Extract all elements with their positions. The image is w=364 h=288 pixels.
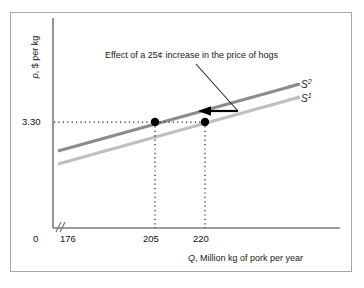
- x-axis-label: Q, Million kg of pork per year: [188, 253, 303, 263]
- y-axis-label-unit: , $ per kg: [30, 36, 40, 74]
- curve-label-s1-sup: 1: [308, 92, 312, 99]
- curve-label-s2-sup: 2: [308, 78, 312, 85]
- plot-canvas: [0, 0, 364, 288]
- x-axis-label-unit: , Million kg of pork per year: [195, 253, 303, 263]
- supply-curve-s2: [58, 84, 300, 151]
- x-axis-label-symbol: Q: [188, 253, 195, 263]
- figure-root: p, $ per kg Q, Million kg of pork per ye…: [0, 0, 364, 288]
- s2-label-leader: [288, 84, 299, 87]
- shift-annotation-text: Effect of a 25¢ increase in the price of…: [105, 50, 278, 60]
- curve-label-s2-base: S: [301, 79, 308, 90]
- x-tick-label-205: 205: [143, 233, 159, 244]
- equilibrium-dot-220: [201, 118, 209, 126]
- s1-label-leader: [288, 97, 299, 100]
- shift-arrow-head: [198, 106, 211, 116]
- supply-curve-s1: [58, 97, 300, 164]
- equilibrium-dot-205: [151, 118, 159, 126]
- y-axis-label-symbol: p: [30, 73, 40, 78]
- y-axis-label: p, $ per kg: [30, 17, 40, 97]
- x-tick-label-220: 220: [193, 233, 209, 244]
- curve-label-s2: S2: [301, 78, 312, 90]
- annotation-leader-line: [196, 64, 237, 110]
- x-tick-label-origin: 0: [33, 233, 38, 244]
- curve-label-s1: S1: [301, 92, 312, 104]
- curve-label-s1-base: S: [301, 93, 308, 104]
- x-tick-label-176: 176: [60, 233, 76, 244]
- y-tick-label-330: 3.30: [22, 116, 41, 127]
